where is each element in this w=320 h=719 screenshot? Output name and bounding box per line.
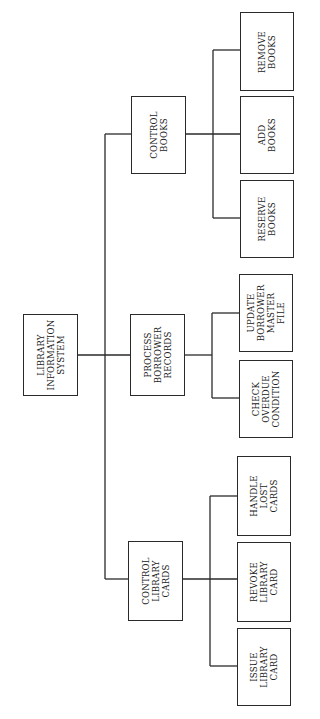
reserve-books-label: RESERVE BOOKS — [257, 197, 277, 242]
check-overdue-condition-box: CHECK OVERDUE CONDITION — [239, 360, 293, 438]
add-books-box: ADD BOOKS — [240, 96, 294, 174]
process-borrower-records-label: PROCESS BORROWER RECORDS — [143, 327, 173, 384]
remove-books-box: REMOVE BOOKS — [240, 12, 294, 91]
library-information-system-box: LIBRARY INFORMATION SYSTEM — [23, 314, 78, 396]
library-information-system-label: LIBRARY INFORMATION SYSTEM — [36, 320, 66, 391]
handle-lost-cards-box: HANDLE LOST CARDS — [237, 456, 291, 536]
update-borrower-master-file-box: UPDATE BORROWER MASTER FILE — [239, 274, 293, 352]
control-library-cards-label: CONTROL LIBRARY CARDS — [141, 557, 171, 605]
update-borrower-master-file-label: UPDATE BORROWER MASTER FILE — [246, 285, 286, 342]
add-books-label: ADD BOOKS — [257, 118, 277, 152]
control-books-label: CONTROL BOOKS — [149, 111, 169, 159]
handle-lost-cards-label: HANDLE LOST CARDS — [249, 475, 279, 516]
check-overdue-condition-label: CHECK OVERDUE CONDITION — [251, 371, 281, 428]
revoke-library-card-label: REVOKE LIBRARY CARD — [249, 561, 279, 602]
process-borrower-records-box: PROCESS BORROWER RECORDS — [130, 314, 185, 396]
issue-library-card-box: ISSUE LIBRARY CARD — [237, 628, 291, 706]
issue-library-card-label: ISSUE LIBRARY CARD — [249, 646, 279, 687]
control-books-box: CONTROL BOOKS — [131, 96, 186, 174]
control-library-cards-box: CONTROL LIBRARY CARDS — [128, 541, 183, 621]
remove-books-label: REMOVE BOOKS — [257, 30, 277, 72]
reserve-books-box: RESERVE BOOKS — [240, 180, 294, 258]
revoke-library-card-box: REVOKE LIBRARY CARD — [237, 542, 291, 622]
